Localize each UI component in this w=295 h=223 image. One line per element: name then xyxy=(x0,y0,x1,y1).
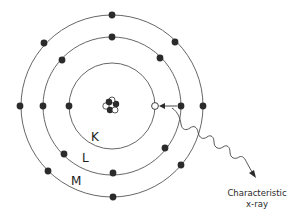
electron-l xyxy=(59,57,66,64)
electron-k-1 xyxy=(66,103,73,110)
electron-m xyxy=(109,12,116,19)
label-l: L xyxy=(82,151,89,165)
electron-l xyxy=(110,170,117,177)
label-k: K xyxy=(91,130,99,144)
caption-line-2: x-ray xyxy=(222,199,292,210)
electron-m xyxy=(17,103,24,110)
electron-l xyxy=(162,145,169,152)
xray-arrowhead-icon xyxy=(249,170,256,178)
electron-l xyxy=(40,103,47,110)
transition-arrow xyxy=(159,103,177,109)
xray-wave xyxy=(172,108,252,172)
electron-vacancy xyxy=(152,103,159,110)
electron-m xyxy=(200,103,207,110)
xray-caption: Characteristic x-ray xyxy=(222,188,292,210)
caption-line-1: Characteristic xyxy=(222,188,292,199)
electron-l xyxy=(109,34,116,41)
electron-m xyxy=(41,40,48,47)
electron-m xyxy=(178,162,185,169)
nucleus xyxy=(103,97,119,113)
electron-m xyxy=(110,194,117,201)
electron-m xyxy=(172,39,179,46)
shell-k xyxy=(69,63,155,149)
label-m: M xyxy=(71,174,81,188)
electron-l xyxy=(157,55,164,62)
electron-l-transitioning xyxy=(178,103,185,110)
electron-m xyxy=(45,168,52,175)
electron-l xyxy=(61,151,68,158)
